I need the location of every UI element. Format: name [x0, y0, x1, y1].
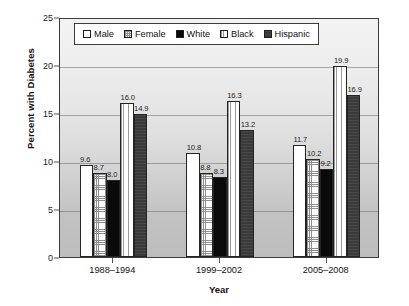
bar-white: [320, 169, 334, 257]
plot-area: 9.68.78.016.014.910.88.88.316.313.211.71…: [59, 18, 379, 258]
legend-item-female: Female: [124, 29, 166, 39]
bar-white: [107, 180, 121, 257]
bar-hispanic: [240, 130, 254, 257]
bar-value-label: 13.2: [241, 120, 255, 129]
bar-black: [120, 103, 134, 257]
bar-value-label: 19.9: [334, 56, 348, 65]
bar-hispanic: [134, 114, 148, 257]
legend-label: Male: [94, 29, 114, 39]
legend-item-male: Male: [83, 29, 114, 39]
legend-label: Hispanic: [275, 29, 310, 39]
x-tick-mark: [326, 258, 327, 263]
bar-group: 11.710.29.219.916.9: [273, 19, 379, 257]
bar-hispanic: [347, 95, 361, 257]
chart-legend: MaleFemaleWhiteBlackHispanic: [74, 23, 319, 45]
x-tick-label: 1988–1994: [89, 265, 135, 275]
x-tick-label: 2005–2008: [303, 265, 349, 275]
bar-female: [306, 159, 320, 257]
y-axis-ticks: 0510152025: [30, 18, 59, 258]
bar-female: [200, 173, 214, 257]
legend-swatch-icon: [264, 30, 272, 38]
bar-male: [293, 145, 307, 257]
bar-female: [93, 173, 107, 257]
legend-swatch-icon: [83, 30, 91, 38]
bar-value-label: 10.2: [307, 149, 321, 158]
legend-swatch-icon: [124, 30, 132, 38]
legend-label: Black: [231, 29, 253, 39]
y-tick-label: 5: [48, 205, 53, 215]
y-tick-label: 25: [43, 13, 53, 23]
bar-value-label: 9.6: [80, 155, 90, 164]
bar-group: 9.68.78.016.014.9: [60, 19, 167, 257]
legend-item-hispanic: Hispanic: [264, 29, 310, 39]
y-tick-label: 15: [43, 109, 53, 119]
legend-swatch-icon: [220, 30, 228, 38]
bar-value-label: 16.3: [227, 91, 241, 100]
bar-value-label: 8.8: [200, 163, 210, 172]
diabetes-prevalence-bar-chart: Percent with Diabetes 0510152025 9.68.78…: [0, 0, 409, 306]
bar-black: [333, 66, 347, 257]
y-tick-label: 20: [43, 61, 53, 71]
bar-value-label: 16.0: [121, 93, 135, 102]
legend-swatch-icon: [176, 30, 184, 38]
bars-layer: 9.68.78.016.014.910.88.88.316.313.211.71…: [60, 19, 378, 257]
bar-black: [227, 101, 241, 257]
bar-value-label: 9.2: [320, 159, 330, 168]
y-tick-label: 0: [48, 253, 53, 263]
bar-group: 10.88.88.316.313.2: [167, 19, 274, 257]
bar-value-label: 10.8: [187, 143, 201, 152]
bar-value-label: 16.9: [347, 85, 361, 94]
bar-value-label: 8.0: [107, 170, 117, 179]
bar-value-label: 11.7: [293, 135, 307, 144]
x-tick-mark: [219, 258, 220, 263]
legend-item-black: Black: [220, 29, 253, 39]
x-axis-title: Year: [59, 284, 379, 295]
y-tick-label: 10: [43, 157, 53, 167]
bar-value-label: 14.9: [134, 104, 148, 113]
bar-male: [186, 153, 200, 257]
x-tick-mark: [112, 258, 113, 263]
x-axis-ticks: 1988–19941999–20022005–2008: [59, 258, 379, 278]
bar-white: [213, 177, 227, 257]
legend-label: White: [187, 29, 211, 39]
bar-value-label: 8.7: [94, 163, 104, 172]
legend-item-white: White: [176, 29, 211, 39]
bar-value-label: 8.3: [214, 167, 224, 176]
bar-male: [80, 165, 94, 257]
x-tick-label: 1999–2002: [196, 265, 242, 275]
legend-label: Female: [135, 29, 166, 39]
